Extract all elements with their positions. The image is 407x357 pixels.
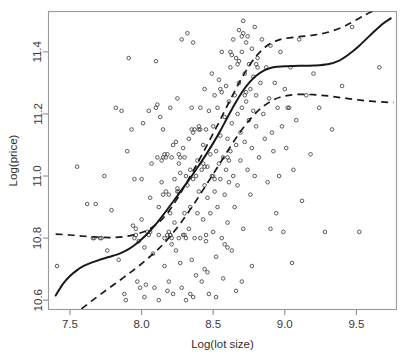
data-point (259, 81, 263, 85)
data-point (199, 236, 203, 240)
data-point (272, 149, 276, 153)
data-point (266, 180, 270, 184)
data-point (200, 168, 204, 172)
data-point (234, 143, 238, 147)
y-tick-label-11.4: 11.4 (32, 40, 44, 62)
data-point (188, 292, 192, 296)
data-point (177, 162, 181, 166)
data-point (216, 205, 220, 209)
data-point (213, 177, 217, 181)
data-point (217, 78, 221, 82)
data-point (240, 50, 244, 54)
data-point (191, 177, 195, 181)
data-point (263, 137, 267, 141)
data-point (173, 221, 177, 225)
data-point (190, 106, 194, 110)
data-point (236, 112, 240, 116)
data-point (240, 106, 244, 110)
data-point (256, 66, 260, 70)
data-point (254, 94, 258, 98)
x-tick-label-9.5: 9.5 (348, 318, 364, 330)
data-point (230, 249, 234, 253)
data-point (234, 289, 238, 293)
data-point (123, 292, 127, 296)
data-point (256, 56, 260, 60)
data-point (173, 177, 177, 181)
data-point (178, 171, 182, 175)
data-point (250, 47, 254, 51)
data-point (214, 295, 218, 299)
data-point (209, 211, 213, 215)
data-point (350, 25, 354, 29)
data-point (211, 230, 215, 234)
data-point (297, 38, 301, 42)
data-point (124, 298, 128, 302)
data-point (241, 227, 245, 231)
data-point (105, 249, 109, 253)
data-point (147, 109, 151, 113)
y-tick-label-10.8: 10.8 (32, 227, 44, 249)
data-point (260, 38, 264, 42)
data-point (237, 28, 241, 32)
data-point (211, 125, 215, 129)
y-tick-label-11.0: 11.0 (32, 165, 44, 187)
data-point (55, 264, 59, 268)
data-point (103, 174, 107, 178)
data-point (220, 90, 224, 94)
data-point (167, 193, 171, 197)
data-point (340, 84, 344, 88)
data-point (194, 274, 198, 278)
data-point (273, 81, 277, 85)
data-point (206, 196, 210, 200)
data-point (196, 211, 200, 215)
data-point (237, 59, 241, 63)
data-point (156, 156, 160, 160)
data-point (94, 202, 98, 206)
data-point (191, 295, 195, 299)
data-point (161, 128, 165, 132)
data-point (253, 25, 257, 29)
data-point (180, 286, 184, 290)
data-point (207, 292, 211, 296)
data-point (262, 112, 266, 116)
data-point (357, 230, 361, 234)
data-point (244, 90, 248, 94)
data-point (203, 184, 207, 188)
data-points-layer (55, 19, 381, 302)
data-point (206, 270, 210, 274)
data-point (216, 106, 220, 110)
lower-band-curve (81, 94, 393, 309)
axis-labels-layer: 7.58.08.59.09.510.610.811.011.211.4Log(l… (7, 40, 364, 350)
data-point (135, 280, 139, 284)
data-point (167, 230, 171, 234)
data-point (120, 109, 124, 113)
data-point (220, 236, 224, 240)
fit-curves-layer (56, 11, 394, 309)
data-point (323, 230, 327, 234)
data-point (187, 227, 191, 231)
data-point (114, 106, 118, 110)
data-point (254, 125, 258, 129)
data-point (204, 233, 208, 237)
data-point (183, 156, 187, 160)
data-point (157, 205, 161, 209)
data-point (214, 255, 218, 259)
scatter-plot-figure: 7.58.08.59.09.510.610.811.011.211.4Log(l… (0, 0, 407, 357)
y-tick-label-10.6: 10.6 (32, 289, 44, 311)
data-point (133, 177, 137, 181)
data-point (317, 106, 321, 110)
data-point (213, 190, 217, 194)
data-point (180, 38, 184, 42)
data-point (257, 156, 261, 160)
data-point (203, 87, 207, 91)
data-point (150, 162, 154, 166)
data-point (378, 66, 382, 70)
data-point (231, 174, 235, 178)
data-point (130, 128, 134, 132)
data-point (188, 168, 192, 172)
upper-band-curve (56, 11, 374, 238)
data-point (270, 131, 274, 135)
data-point (163, 264, 167, 268)
data-point (200, 280, 204, 284)
data-point (144, 283, 148, 287)
